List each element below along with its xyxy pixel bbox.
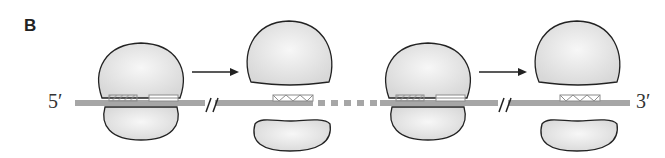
arrow-icon	[479, 68, 527, 76]
arrow-icon	[192, 68, 239, 76]
triangle-site-box	[560, 95, 600, 101]
small-subunit	[254, 120, 330, 151]
small-subunit	[104, 107, 178, 140]
lined-site-box	[436, 95, 465, 101]
large-subunit	[247, 21, 332, 85]
ribosome-1-assembled	[75, 43, 185, 140]
mrna-dashed-segment	[318, 100, 377, 106]
ribosome-diagram	[0, 0, 665, 158]
ribosome-3-assembled	[380, 43, 475, 140]
triangle-site-box	[273, 95, 313, 101]
large-subunit	[99, 43, 184, 98]
small-subunit	[391, 107, 465, 140]
small-subunit	[541, 120, 617, 151]
lined-site-box	[149, 95, 178, 101]
hatched-site-box	[109, 95, 137, 101]
large-subunit	[535, 21, 620, 85]
large-subunit	[386, 43, 471, 98]
ribosome-2-dissociated	[247, 21, 332, 151]
hatched-site-box	[396, 95, 424, 101]
ribosome-4-dissociated	[535, 21, 620, 151]
